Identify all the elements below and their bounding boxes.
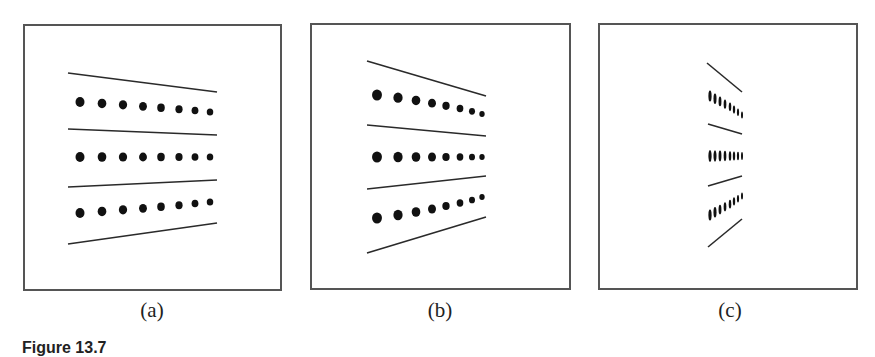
guide-line: [708, 124, 742, 134]
dot-marker: [469, 197, 475, 204]
dash-marker: [724, 151, 727, 161]
dot-marker: [372, 213, 382, 224]
dot-marker: [457, 199, 464, 206]
dash-marker: [713, 94, 716, 104]
dot-marker: [457, 153, 464, 160]
dash-marker: [729, 103, 732, 112]
dot-marker: [119, 100, 127, 109]
guide-line: [708, 219, 742, 247]
dash-marker: [741, 193, 743, 200]
dot-marker: [479, 154, 484, 160]
dot-marker: [157, 153, 165, 161]
dot-marker: [428, 99, 436, 108]
dash-marker: [741, 112, 743, 119]
dot-marker: [175, 201, 182, 209]
guide-line: [367, 217, 486, 253]
dot-marker: [442, 153, 449, 161]
dot-marker: [442, 102, 449, 110]
figure-caption: Figure 13.7: [22, 339, 106, 357]
dot-marker: [428, 205, 436, 214]
dot-marker: [192, 200, 199, 208]
dot-marker: [76, 208, 85, 218]
dash-marker: [741, 152, 743, 160]
dot-marker: [139, 102, 147, 111]
dash-marker: [708, 150, 711, 162]
guide-line: [367, 61, 486, 96]
panel-b-label: (b): [400, 298, 480, 323]
dash-marker: [708, 91, 711, 102]
dash-marker: [719, 205, 722, 215]
dash-marker: [733, 151, 735, 160]
dash-marker: [724, 100, 727, 109]
dash-marker: [733, 106, 735, 114]
panel-a-drawing: [25, 26, 284, 293]
guide-line: [68, 180, 217, 187]
dot-marker: [469, 154, 475, 161]
dash-marker: [733, 197, 735, 205]
dot-marker: [175, 153, 182, 161]
dot-marker: [207, 108, 213, 115]
panel-c-drawing: [600, 25, 860, 292]
guide-line: [707, 63, 742, 92]
dash-marker: [719, 151, 722, 162]
dash-marker: [729, 151, 732, 161]
dash-marker: [724, 202, 727, 211]
dot-marker: [192, 153, 199, 161]
dot-marker: [157, 104, 165, 112]
dot-marker: [457, 105, 464, 112]
guide-line: [68, 223, 217, 244]
panel-b-drawing: [312, 25, 573, 292]
guide-line: [367, 176, 486, 189]
dot-marker: [428, 153, 436, 162]
dot-marker: [98, 152, 107, 162]
dot-marker: [192, 107, 199, 115]
dot-marker: [139, 204, 147, 213]
panel-b: [310, 23, 571, 290]
panel-a: [23, 24, 282, 291]
dot-marker: [175, 105, 182, 113]
dot-marker: [119, 205, 127, 214]
dash-marker: [708, 210, 711, 221]
dot-marker: [76, 152, 85, 162]
panel-a-label: (a): [112, 298, 192, 323]
dot-marker: [393, 93, 402, 103]
panel-c: [598, 23, 858, 290]
dot-marker: [479, 194, 484, 200]
guide-line: [708, 176, 742, 186]
dash-marker: [713, 207, 716, 217]
guide-line: [367, 125, 486, 136]
dash-marker: [737, 152, 739, 161]
dot-marker: [207, 153, 213, 160]
dot-marker: [442, 202, 449, 210]
dot-marker: [469, 108, 475, 115]
dot-marker: [412, 152, 421, 162]
dash-marker: [713, 150, 716, 161]
dash-marker: [737, 195, 739, 203]
dot-marker: [98, 207, 107, 217]
dash-marker: [719, 97, 722, 107]
panel-c-label: (c): [690, 298, 770, 323]
guide-line: [68, 73, 217, 92]
guide-line: [68, 129, 217, 135]
dash-marker: [729, 200, 732, 209]
dot-marker: [372, 152, 382, 163]
dash-marker: [737, 109, 739, 117]
dot-marker: [76, 97, 85, 107]
dot-marker: [119, 152, 127, 161]
dot-marker: [372, 90, 382, 101]
dot-marker: [412, 96, 421, 106]
dot-marker: [139, 153, 147, 162]
dot-marker: [98, 99, 107, 109]
dot-marker: [393, 152, 402, 162]
dot-marker: [412, 207, 421, 217]
dot-marker: [207, 198, 213, 205]
dot-marker: [393, 210, 402, 220]
dot-marker: [157, 203, 165, 211]
dot-marker: [479, 111, 484, 117]
